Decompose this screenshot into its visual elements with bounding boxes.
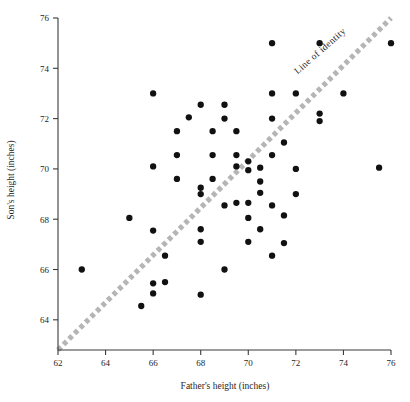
data-point — [233, 163, 239, 169]
data-point — [221, 202, 227, 208]
y-tick-label: 64 — [40, 315, 50, 325]
data-point — [245, 200, 251, 206]
x-axis-title: Father's height (inches) — [181, 381, 270, 392]
data-point — [221, 115, 227, 121]
data-point — [293, 166, 299, 172]
data-point — [150, 90, 156, 96]
data-point — [269, 202, 275, 208]
y-tick-label: 66 — [40, 265, 50, 275]
data-point — [150, 163, 156, 169]
data-point — [126, 215, 132, 221]
data-point — [198, 185, 204, 191]
data-point — [174, 152, 180, 158]
data-point — [233, 152, 239, 158]
data-point — [269, 152, 275, 158]
data-point — [245, 215, 251, 221]
y-tick-label: 72 — [40, 114, 49, 124]
data-point — [198, 102, 204, 108]
data-point — [150, 227, 156, 233]
y-tick-label: 76 — [40, 13, 50, 23]
identity-reference-line — [58, 18, 391, 350]
data-point — [269, 115, 275, 121]
data-point — [198, 239, 204, 245]
x-tick-label: 74 — [339, 358, 349, 368]
data-point — [221, 266, 227, 272]
line-of-identity — [58, 18, 391, 350]
y-tick-label: 70 — [40, 164, 50, 174]
y-tick-label: 68 — [40, 215, 50, 225]
data-point — [245, 167, 251, 173]
data-point — [376, 165, 382, 171]
data-point — [316, 118, 322, 124]
data-point — [281, 240, 287, 246]
x-tick-label: 72 — [291, 358, 300, 368]
data-point — [198, 292, 204, 298]
data-point — [150, 290, 156, 296]
data-point — [209, 152, 215, 158]
data-point — [198, 226, 204, 232]
x-tick-label: 62 — [54, 358, 63, 368]
data-point — [293, 90, 299, 96]
data-point — [316, 110, 322, 116]
data-point — [233, 200, 239, 206]
data-point — [221, 102, 227, 108]
data-point — [138, 303, 144, 309]
data-point — [174, 176, 180, 182]
x-tick-label: 70 — [244, 358, 254, 368]
x-tick-label: 76 — [387, 358, 397, 368]
data-point — [257, 226, 263, 232]
data-point — [269, 253, 275, 259]
data-point — [186, 114, 192, 120]
data-point — [150, 280, 156, 286]
data-point — [233, 128, 239, 134]
data-point — [162, 279, 168, 285]
y-tick-label: 74 — [40, 64, 50, 74]
x-tick-label: 64 — [101, 358, 111, 368]
y-axis-title: Son's height (inches) — [6, 140, 17, 219]
data-point — [257, 190, 263, 196]
data-point — [281, 139, 287, 145]
data-point — [79, 266, 85, 272]
x-tick-label: 68 — [196, 358, 206, 368]
data-point — [257, 165, 263, 171]
data-point — [388, 40, 394, 46]
data-point — [198, 191, 204, 197]
data-point — [245, 158, 251, 164]
plot-canvas: 626466687072747664666870727476 Line of i… — [0, 0, 410, 402]
data-point — [281, 212, 287, 218]
data-point — [174, 128, 180, 134]
data-point — [245, 239, 251, 245]
data-point — [269, 40, 275, 46]
x-tick-label: 66 — [149, 358, 159, 368]
data-point — [293, 191, 299, 197]
data-point — [162, 253, 168, 259]
data-point — [209, 128, 215, 134]
data-point — [340, 90, 346, 96]
data-point — [209, 176, 215, 182]
data-point — [269, 90, 275, 96]
scatter-plot-figure: 626466687072747664666870727476 Line of i… — [0, 0, 410, 402]
data-point — [257, 178, 263, 184]
